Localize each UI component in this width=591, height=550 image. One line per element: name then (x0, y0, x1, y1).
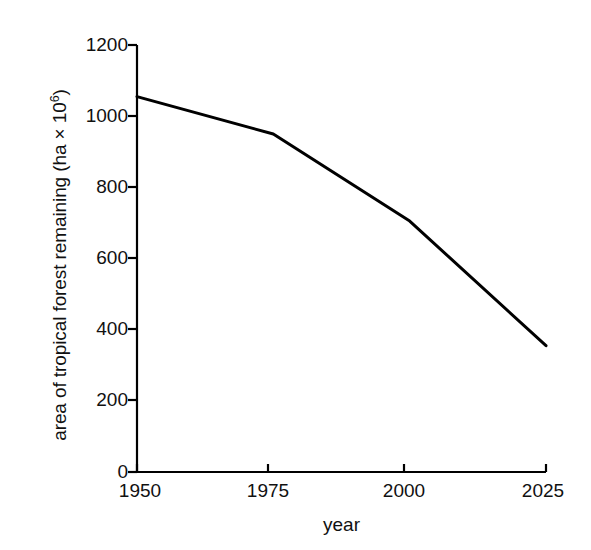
y-tick-marks (128, 45, 137, 472)
chart-container: area of tropical forest remaining (ha × … (0, 0, 591, 550)
x-tick-marks (137, 464, 546, 472)
plot-area (0, 0, 591, 550)
data-line-forest-area (137, 97, 546, 346)
axis-lines (137, 45, 546, 472)
